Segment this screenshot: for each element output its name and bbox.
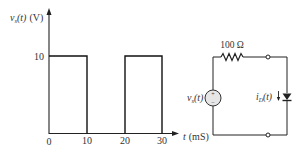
wire-left-top xyxy=(213,57,221,90)
pulse-2 xyxy=(125,56,162,134)
x-axis-label: t(mS) xyxy=(183,131,209,143)
y-axis-arrow-icon xyxy=(47,8,52,15)
source-label: vs(t) xyxy=(187,92,204,104)
x-tick-10: 10 xyxy=(82,135,92,146)
pulse-1 xyxy=(49,56,87,134)
diode-current-label: iD(t) xyxy=(256,92,272,103)
x-tick-0: 0 xyxy=(47,136,52,147)
x-tick-20: 20 xyxy=(120,135,130,146)
resistor-label: 100 Ω xyxy=(220,40,244,50)
x-axis-arrow-icon xyxy=(172,131,179,136)
y-tick-10: 10 xyxy=(34,51,44,62)
terminal-bottom-icon xyxy=(266,133,270,137)
resistor-icon xyxy=(221,54,243,61)
current-arrow-icon xyxy=(277,97,280,101)
y-axis-label: vs(t)(V) xyxy=(10,12,43,24)
waveform-plot: vs(t)(V) 10 0 10 20 30 t(mS) xyxy=(10,8,209,147)
diode-icon xyxy=(283,94,292,101)
x-tick-30: 30 xyxy=(157,135,167,146)
terminal-top-icon xyxy=(266,55,270,59)
diagram-canvas: vs(t)(V) 10 0 10 20 30 t(mS) xyxy=(0,0,305,152)
circuit-schematic xyxy=(205,54,292,138)
